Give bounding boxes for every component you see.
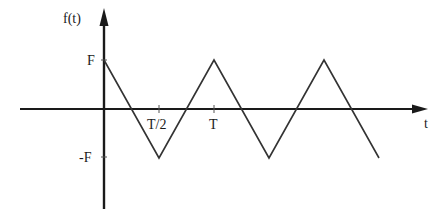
x-axis-arrowhead-icon <box>412 105 428 114</box>
x-tick-label-half: T/2 <box>147 118 166 132</box>
y-axis-arrowhead-icon <box>100 8 109 26</box>
triangle-wave-chart <box>0 0 448 219</box>
x-axis-label: t <box>424 117 428 131</box>
y-axis-label: f(t) <box>63 12 81 26</box>
y-tick-label-negF: -F <box>79 151 91 165</box>
x-tick-label-full: T <box>209 118 218 132</box>
y-tick-label-F: F <box>87 54 95 68</box>
